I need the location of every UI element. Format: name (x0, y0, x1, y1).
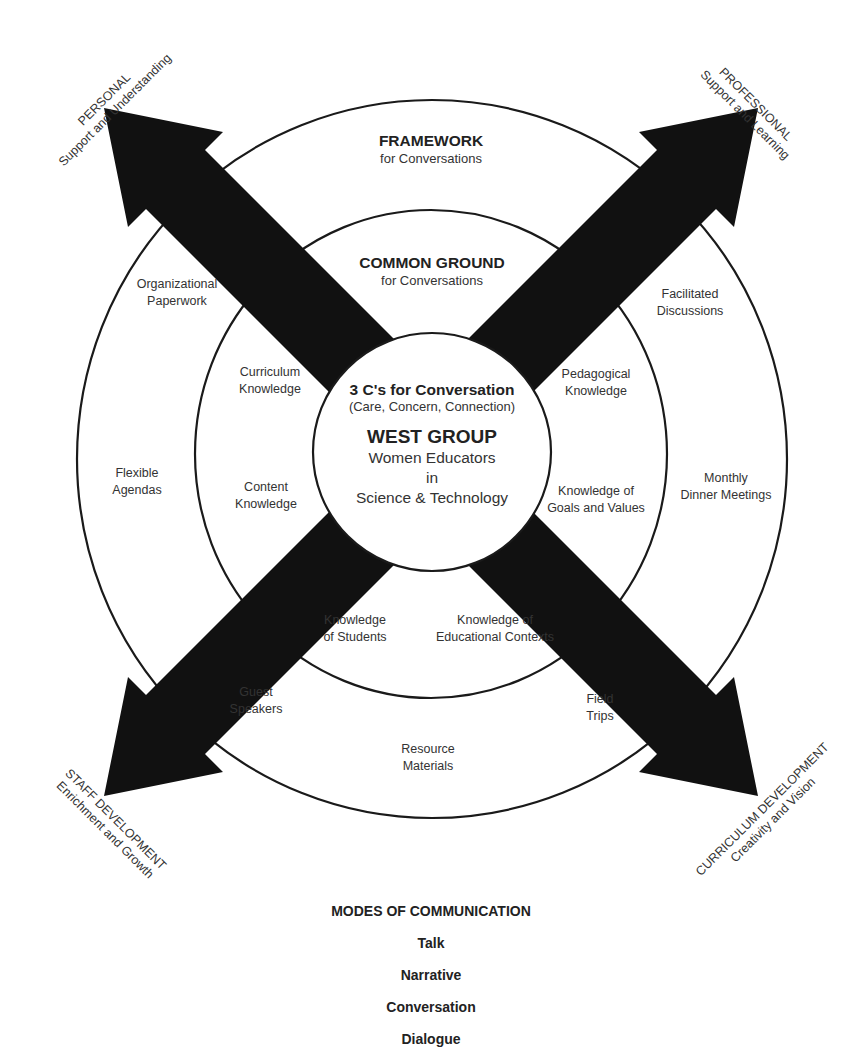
mode-item-talk: Talk (331, 934, 531, 952)
item-line: Discussions (657, 303, 724, 320)
framework-item-flexible-agendas: Flexible Agendas (112, 465, 161, 499)
common-ground-item-pedagogical-knowledge: Pedagogical Knowledge (562, 366, 631, 400)
framework-item-organizational-paperwork: Organizational Paperwork (137, 276, 218, 310)
item-line: of Students (323, 629, 386, 646)
framework-item-facilitated-discussions: Facilitated Discussions (657, 286, 724, 320)
item-line: Organizational (137, 276, 218, 293)
mode-item-conversation: Conversation (331, 998, 531, 1016)
conversation-framework-diagram: FRAMEWORK for Conversations COMMON GROUN… (0, 0, 861, 1055)
item-line: Paperwork (137, 293, 218, 310)
item-line: Monthly (680, 470, 771, 487)
item-line: Materials (401, 758, 455, 775)
framework-item-field-trips: Field Trips (586, 691, 613, 725)
west-group-line-2: in (349, 468, 515, 488)
item-line: Curriculum (239, 364, 301, 381)
common-ground-item-knowledge-of-students: Knowledge of Students (323, 612, 386, 646)
framework-item-monthly-dinner-meetings: Monthly Dinner Meetings (680, 470, 771, 504)
common-ground-item-content-knowledge: Content Knowledge (235, 479, 297, 513)
item-line: Goals and Values (547, 500, 645, 517)
item-line: Knowledge (235, 496, 297, 513)
mode-item-dialogue: Dialogue (331, 1030, 531, 1048)
common-ground-item-goals-and-values: Knowledge of Goals and Values (547, 483, 645, 517)
item-line: Knowledge (562, 383, 631, 400)
item-line: Speakers (230, 701, 283, 718)
three-cs-heading: 3 C's for Conversation (349, 381, 515, 398)
item-line: Knowledge of (547, 483, 645, 500)
item-line: Resource (401, 741, 455, 758)
item-line: Trips (586, 708, 613, 725)
item-line: Agendas (112, 482, 161, 499)
west-group-title: WEST GROUP (349, 425, 515, 448)
framework-title-block: FRAMEWORK for Conversations (379, 131, 483, 167)
item-line: Guest (230, 684, 283, 701)
item-line: Pedagogical (562, 366, 631, 383)
modes-heading: MODES OF COMMUNICATION (331, 902, 531, 920)
item-line: Field (586, 691, 613, 708)
west-group-line-3: Science & Technology (349, 488, 515, 508)
common-ground-title-block: COMMON GROUND for Conversations (359, 253, 505, 289)
three-cs-subheading: (Care, Concern, Connection) (349, 398, 515, 415)
framework-item-guest-speakers: Guest Speakers (230, 684, 283, 718)
item-line: Educational Contexts (436, 629, 554, 646)
common-ground-title: COMMON GROUND (359, 253, 505, 272)
item-line: Dinner Meetings (680, 487, 771, 504)
common-ground-item-educational-contexts: Knowledge of Educational Contexts (436, 612, 554, 646)
item-line: Flexible (112, 465, 161, 482)
modes-of-communication: MODES OF COMMUNICATION Talk Narrative Co… (331, 902, 531, 1048)
item-line: Knowledge of (436, 612, 554, 629)
framework-title: FRAMEWORK (379, 131, 483, 150)
common-ground-item-curriculum-knowledge: Curriculum Knowledge (239, 364, 301, 398)
item-line: Knowledge (239, 381, 301, 398)
framework-item-resource-materials: Resource Materials (401, 741, 455, 775)
item-line: Content (235, 479, 297, 496)
west-group-line-1: Women Educators (349, 448, 515, 468)
framework-subtitle: for Conversations (379, 150, 483, 167)
center-text-block: 3 C's for Conversation (Care, Concern, C… (349, 381, 515, 508)
item-line: Facilitated (657, 286, 724, 303)
item-line: Knowledge (323, 612, 386, 629)
mode-item-narrative: Narrative (331, 966, 531, 984)
common-ground-subtitle: for Conversations (359, 272, 505, 289)
